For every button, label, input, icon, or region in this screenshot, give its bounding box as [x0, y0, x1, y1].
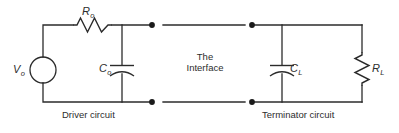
interface-label: The Interface [160, 52, 250, 74]
interface-label-line2: Interface [160, 63, 250, 74]
driver-resistor-label: Ro [82, 5, 94, 18]
load-capacitor-label: CL [290, 62, 302, 75]
driver-top-wire [43, 25, 73, 57]
driver-left-bottom-wire [43, 83, 152, 102]
capacitor-co-branch [110, 25, 134, 102]
terminator-circuit-caption: Terminator circuit [262, 110, 334, 121]
driver-top-node-dot [149, 22, 155, 28]
driver-bottom-node-dot [149, 99, 155, 105]
resistor-rl-symbol [355, 25, 369, 102]
circuit-diagram-figure: Vo Ro Co CL RL The Interface Driver circ… [0, 0, 399, 133]
terminator-bottom-node-dot [249, 99, 255, 105]
source-voltage-label: Vo [13, 63, 25, 76]
resistor-ro-symbol [73, 18, 112, 32]
driver-circuit-caption: Driver circuit [62, 110, 115, 121]
load-resistor-label: RL [372, 62, 384, 75]
driver-capacitor-label: Co [99, 62, 111, 75]
voltage-source-symbol [30, 57, 56, 83]
terminator-top-node-dot [249, 22, 255, 28]
